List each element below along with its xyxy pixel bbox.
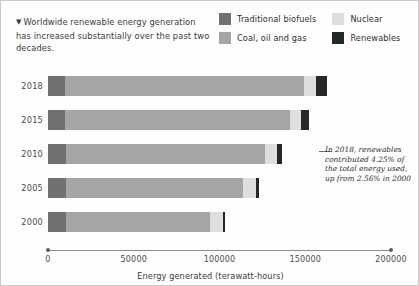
bar-segment[interactable] [66,144,265,164]
bar-segment[interactable] [48,110,65,130]
bar-segment[interactable] [48,76,65,96]
legend-label-biofuels: Traditional biofuels [237,14,316,24]
y-axis-label-2005: 2005 [15,178,43,198]
legend-label-renewables: Renewables [350,33,400,43]
bar-segment[interactable] [66,178,243,198]
stacked-bar-2015[interactable] [48,110,309,130]
legend-item-fossil: Coal, oil and gas [219,32,316,44]
legend-swatch-nuclear [332,13,344,25]
bar-segment[interactable] [48,144,66,164]
legend-item-nuclear: Nuclear [332,13,400,25]
x-tick-label: 0 [45,255,50,264]
bar-segment[interactable] [223,212,226,232]
legend-swatch-renewables [332,32,344,44]
bar-segment[interactable] [210,212,223,232]
legend-label-nuclear: Nuclear [350,14,382,24]
y-axis-label-2000: 2000 [15,212,43,232]
annotation-text: In 2018, renewables contributed 4.25% of… [325,145,415,183]
bar-segment[interactable] [265,144,277,164]
y-axis-label-2015: 2015 [15,110,43,130]
legend-swatch-fossil [219,32,231,44]
triangle-down-icon: ▼ [16,16,21,29]
headline: ▼Worldwide renewable energy generation h… [16,16,211,55]
axis-end-dot [389,248,393,252]
axis-start-dot [46,248,50,252]
bar-segment[interactable] [65,110,290,130]
stacked-bar-2018[interactable] [48,76,327,96]
plot-area: 20182015201020052000 0500001000001500002… [1,63,419,286]
bar-segment[interactable] [304,76,316,96]
chart-frame: ▼Worldwide renewable energy generation h… [0,0,419,286]
bar-segment[interactable] [65,76,303,96]
legend-label-fossil: Coal, oil and gas [237,33,307,43]
legend-swatch-biofuels [219,13,231,25]
bar-segment[interactable] [277,144,282,164]
x-tick-label: 100000 [204,255,236,264]
bar-segment[interactable] [48,178,66,198]
x-tick-label: 200000 [375,255,407,264]
bar-segment[interactable] [316,76,327,96]
stacked-bar-2010[interactable] [48,144,282,164]
legend-item-renewables: Renewables [332,32,400,44]
legend: Traditional biofuelsNuclearCoal, oil and… [219,13,400,44]
bar-segment[interactable] [243,178,256,198]
headline-text: Worldwide renewable energy generation ha… [16,17,209,53]
x-axis-title: Energy generated (terawatt-hours) [1,271,419,281]
x-tick-label: 150000 [289,255,321,264]
x-tick-label: 50000 [121,255,147,264]
chart-header: ▼Worldwide renewable energy generation h… [1,1,419,63]
bar-segment[interactable] [48,212,66,232]
bar-segment[interactable] [256,178,259,198]
stacked-bar-2000[interactable] [48,212,225,232]
bar-segment[interactable] [290,110,301,130]
bar-segment[interactable] [301,110,309,130]
x-axis-line [48,250,391,251]
legend-item-biofuels: Traditional biofuels [219,13,316,25]
stacked-bar-2005[interactable] [48,178,259,198]
bar-segment[interactable] [66,212,210,232]
y-axis-label-2018: 2018 [15,76,43,96]
y-axis-label-2010: 2010 [15,144,43,164]
